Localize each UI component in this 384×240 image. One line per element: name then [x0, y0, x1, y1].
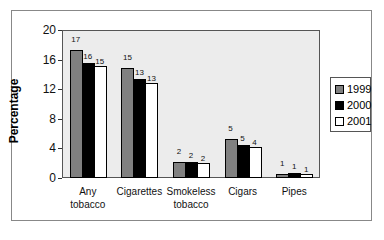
y-tick-label: 16: [28, 53, 56, 67]
legend-item-2001: 2001: [335, 115, 371, 127]
legend-item-2000: 2000: [335, 99, 371, 111]
legend-label: 2001: [347, 115, 371, 127]
data-label: 15: [119, 53, 135, 62]
data-label: 5: [223, 124, 239, 133]
legend-label: 2000: [347, 99, 371, 111]
y-tick-label: 4: [28, 141, 56, 155]
y-tick-label: 20: [28, 23, 56, 37]
legend-item-1999: 1999: [335, 83, 371, 95]
legend-swatch: [335, 85, 344, 94]
y-tick-label: 12: [28, 82, 56, 96]
bar-2001: [249, 147, 262, 178]
bar-2001: [197, 163, 210, 178]
y-tick: [58, 178, 62, 179]
data-label: 4: [247, 138, 263, 147]
legend-swatch: [335, 117, 344, 126]
bar-2001: [94, 66, 107, 178]
data-label: 1: [298, 165, 314, 174]
legend: 199920002001: [330, 77, 371, 132]
data-label: 15: [92, 57, 108, 66]
y-axis-label: Percentage: [7, 71, 21, 151]
x-tick-label: Pipes: [264, 185, 324, 198]
data-label: 13: [143, 74, 159, 83]
y-tick-label: 8: [28, 112, 56, 126]
data-label: 2: [195, 154, 211, 163]
data-label: 17: [68, 35, 84, 44]
legend-swatch: [335, 101, 344, 110]
y-tick-label: 0: [28, 171, 56, 185]
legend-label: 1999: [347, 83, 371, 95]
bar-2001: [300, 174, 313, 178]
bar-2001: [145, 83, 158, 178]
